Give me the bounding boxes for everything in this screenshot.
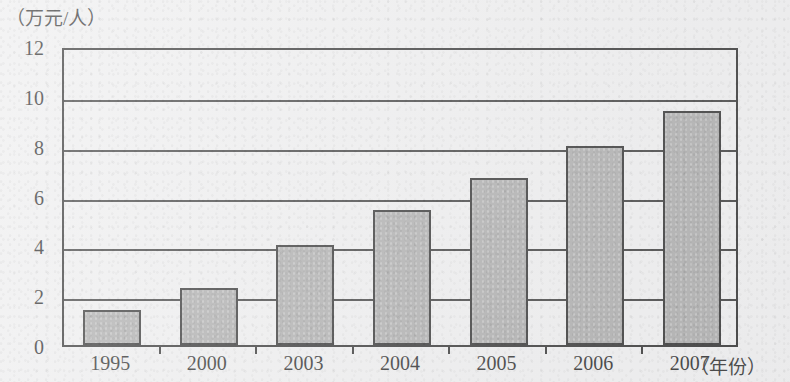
y-axis-tick-label: 12 <box>12 37 52 60</box>
y-axis-tick-label: 8 <box>12 136 52 159</box>
gridline <box>64 200 736 202</box>
y-axis-tick-value: 2 <box>34 286 52 309</box>
bar <box>83 310 141 345</box>
y-axis-tick-label: 10 <box>12 86 52 109</box>
x-axis-tick-mark <box>352 347 354 354</box>
y-axis-tick-value: 12 <box>24 37 52 60</box>
bar <box>663 111 721 345</box>
bar <box>470 178 528 345</box>
x-axis-tick-label: 2003 <box>283 352 323 375</box>
y-axis-tick-label: 4 <box>12 236 52 259</box>
y-axis-tick-value: 0 <box>34 336 52 359</box>
bar <box>180 288 238 345</box>
plot-area <box>62 48 738 347</box>
x-axis-tick-mark <box>641 347 643 354</box>
x-axis-tick-mark <box>159 347 161 354</box>
x-axis-title: （年份） <box>690 352 766 379</box>
y-axis-tick-value: 8 <box>34 136 52 159</box>
x-axis-tick-label: 2004 <box>380 352 420 375</box>
y-axis-tick-value: 4 <box>34 236 52 259</box>
bar <box>566 146 624 345</box>
chart-figure: （万元/人） 024681012 19952000200320042005200… <box>0 0 790 382</box>
bar <box>276 245 334 345</box>
x-axis-tick-label: 2006 <box>573 352 613 375</box>
y-axis-unit-label: （万元/人） <box>6 3 106 30</box>
x-axis-tick-mark <box>545 347 547 354</box>
gridline <box>64 100 736 102</box>
x-axis-tick-label: 1995 <box>90 352 130 375</box>
y-axis-tick-value: 6 <box>34 186 52 209</box>
y-axis-tick-label: 0 <box>12 336 52 359</box>
gridline <box>64 150 736 152</box>
x-axis-tick-label: 2005 <box>477 352 517 375</box>
bar <box>373 210 431 345</box>
y-axis-tick-label: 6 <box>12 186 52 209</box>
x-axis-tick-mark <box>255 347 257 354</box>
x-axis-tick-mark <box>448 347 450 354</box>
y-axis-tick-value: 10 <box>24 86 52 109</box>
y-axis-tick-label: 2 <box>12 286 52 309</box>
x-axis-tick-label: 2000 <box>187 352 227 375</box>
